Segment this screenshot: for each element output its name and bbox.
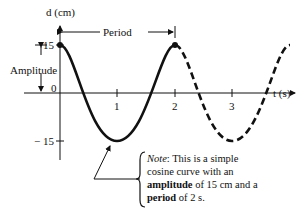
y-tick-0: 0 (51, 82, 57, 94)
x-tick-1: 1 (114, 100, 120, 112)
note-brace (136, 152, 145, 207)
y-tick-neg15: − 15 (34, 135, 54, 147)
x-tick-3: 3 (229, 100, 235, 112)
period-label: Period (103, 26, 132, 38)
x-axis-label: t (s) (273, 87, 290, 99)
note-pointer (94, 146, 140, 179)
amplitude-label: Amplitude (10, 64, 57, 76)
y-tick-15: 15 (43, 39, 54, 51)
note-text: Note: This is a simple cosine curve with… (147, 152, 307, 204)
x-tick-2: 2 (172, 100, 178, 112)
y-axis-label: d (cm) (46, 6, 75, 18)
